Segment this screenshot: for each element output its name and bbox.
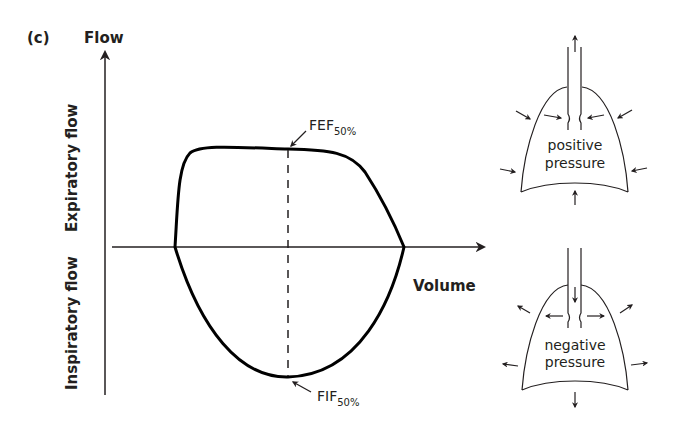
lung-negative-pressure <box>503 248 647 407</box>
expiratory-flow-label: Expiratory flow <box>63 103 81 232</box>
fif-label: FIF50% <box>317 388 359 408</box>
negative-pressure-label-line2: pressure <box>545 354 605 370</box>
flow-volume-loop <box>175 147 404 377</box>
flow-volume-diagram: (c) Flow Volume Expiratory flow Inspirat… <box>0 0 681 427</box>
positive-pressure-label-line2: pressure <box>545 155 605 171</box>
inspiratory-flow-label: Inspiratory flow <box>63 256 81 390</box>
panel-label: (c) <box>27 29 50 47</box>
positive-pressure-label-line1: positive <box>548 137 603 153</box>
fef-pointer-arrow <box>291 131 306 146</box>
fef-label: FEF50% <box>309 117 356 137</box>
y-axis-label: Flow <box>84 29 124 47</box>
x-axis-label: Volume <box>413 277 476 295</box>
lung-positive-pressure <box>500 36 647 205</box>
negative-pressure-label-line1: negative <box>544 337 605 353</box>
fif-pointer-arrow <box>293 382 311 392</box>
